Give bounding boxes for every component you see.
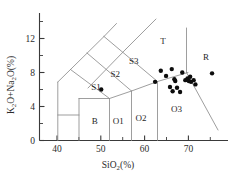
x-tick-label-40: 40 xyxy=(52,144,62,154)
x-tick-label-70: 70 xyxy=(184,144,194,154)
x-axis-title: SiO2(%) xyxy=(102,160,134,171)
x-tick-labels-group: 40 50 60 70 xyxy=(52,144,193,154)
field-line-foidite-upper-left xyxy=(58,70,71,83)
y-ticks-group xyxy=(40,22,45,141)
field-label-s2: S2 xyxy=(110,69,120,79)
data-point xyxy=(99,87,103,91)
x-axis-title-main: SiO xyxy=(102,160,117,170)
data-point xyxy=(188,75,192,79)
y-tick-label-8: 8 xyxy=(30,68,35,78)
y-tick-label-4: 4 xyxy=(30,102,35,112)
x-tick-label-60: 60 xyxy=(140,144,150,154)
field-label-r: R xyxy=(203,52,209,62)
data-point xyxy=(191,78,195,82)
y-tick-labels-group: 0 4 8 12 xyxy=(26,34,36,146)
data-point xyxy=(164,74,168,78)
field-line-upper-cross-a xyxy=(104,24,117,37)
x-axis-title-tail: (%) xyxy=(120,160,134,171)
y-tick-label-0: 0 xyxy=(30,136,35,146)
field-label-o1: O1 xyxy=(113,116,124,126)
x-ticks-group xyxy=(57,136,210,141)
axis-group xyxy=(40,13,229,141)
data-point xyxy=(170,67,174,71)
y-tick-label-12: 12 xyxy=(26,34,36,44)
chart-canvas: 40 50 60 70 0 4 8 12 SiO2(%) K2O+Na2O(%)… xyxy=(0,0,233,174)
data-point xyxy=(193,82,197,86)
field-label-t: T xyxy=(160,36,166,46)
field-line-upper-diagonal-a xyxy=(71,37,105,70)
y-axis-title-p3: O(%) xyxy=(6,56,17,77)
tas-diagram-figure: 40 50 60 70 0 4 8 12 SiO2(%) K2O+Na2O(%)… xyxy=(0,0,233,174)
data-point xyxy=(168,85,172,89)
data-point xyxy=(170,89,174,93)
data-point xyxy=(153,80,157,84)
data-point xyxy=(178,90,182,94)
y-axis-title: K2O+Na2O(%) xyxy=(6,56,17,114)
field-label-o2: O2 xyxy=(136,113,147,123)
data-point xyxy=(173,79,177,83)
x-tick-label-50: 50 xyxy=(96,144,106,154)
y-axis-title-p2: O+Na xyxy=(6,80,16,104)
data-point xyxy=(175,86,179,90)
field-label-o3: O3 xyxy=(171,104,182,114)
data-point xyxy=(210,71,214,75)
field-line-s1-s2-diagonal xyxy=(71,70,110,99)
data-point xyxy=(159,69,163,73)
data-point xyxy=(180,70,184,74)
field-line-o3-t-boundary xyxy=(110,73,189,99)
field-label-b: B xyxy=(92,116,98,126)
field-line-upper-cross-b xyxy=(126,19,156,49)
field-label-s3: S3 xyxy=(129,56,139,66)
